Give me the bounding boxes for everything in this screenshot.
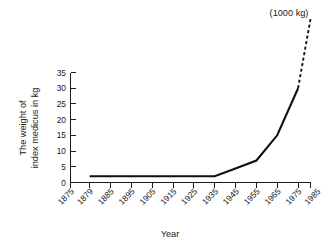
y-axis-title-line1: The weight of (18, 100, 28, 156)
x-tick-label-1935: 1935 (200, 186, 220, 206)
y-tick-label-10: 10 (57, 146, 67, 156)
extrapolation-annotation: (1000 kg) (270, 8, 309, 18)
x-tick-label-1879: 1879 (75, 186, 95, 206)
x-tick-label-1955: 1955 (242, 186, 262, 206)
x-tick-label-1985: 1985 (302, 186, 322, 206)
x-tick-label-1925: 1925 (179, 186, 199, 206)
x-tick-label-1895: 1895 (116, 186, 136, 206)
y-tick-label-15: 15 (57, 130, 67, 140)
x-tick-label-1975: 1975 (283, 186, 303, 206)
y-tick-label-25: 25 (57, 99, 67, 109)
x-tick-label-1875: 1875 (56, 186, 76, 206)
chart-figure: 35 30 25 20 15 10 5 0 (0, 0, 334, 250)
y-axis-title-line2: index medicus in kg (30, 88, 40, 169)
y-tick-label-20: 20 (57, 115, 67, 125)
y-tick-label-35: 35 (57, 68, 67, 78)
x-axis-tick-labels: 1875 1879 1885 1895 1905 1915 1925 1935 … (56, 186, 323, 206)
y-tick-label-5: 5 (61, 162, 66, 172)
data-line-extrapolated (298, 19, 310, 88)
y-axis-title: The weight of index medicus in kg (18, 88, 40, 169)
data-line-observed (90, 88, 299, 176)
line-chart-canvas: 35 30 25 20 15 10 5 0 (0, 0, 334, 250)
x-axis-title: Year (161, 229, 180, 239)
x-tick-label-1965: 1965 (262, 186, 282, 206)
x-tick-label-1885: 1885 (96, 186, 116, 206)
y-tick-label-30: 30 (57, 83, 67, 93)
x-tick-label-1915: 1915 (158, 186, 178, 206)
y-tick-label-0: 0 (61, 178, 66, 188)
y-axis-ticks: 35 30 25 20 15 10 5 0 (57, 68, 76, 188)
x-tick-label-1905: 1905 (137, 186, 157, 206)
x-tick-label-1945: 1945 (221, 186, 241, 206)
